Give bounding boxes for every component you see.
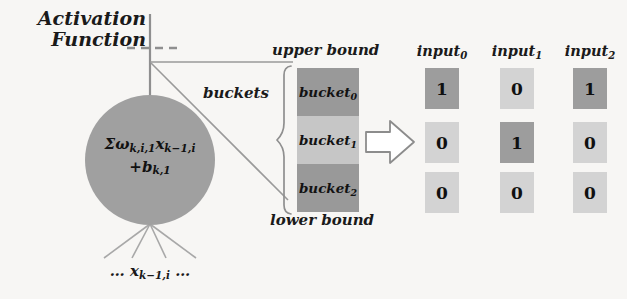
matrix-column-header-2: input2 (553, 42, 627, 59)
matrix-column-header-0: input0 (405, 42, 479, 59)
activation-function-label: Activation Function (18, 8, 146, 51)
bucket-cell-0[interactable]: bucket0 (297, 68, 359, 116)
neuron-input-edges (104, 224, 196, 258)
bucket-label-2: bucket2 (299, 180, 357, 196)
matrix-cell-r0c0[interactable]: 1 (425, 68, 459, 109)
neuron-inputs-label: … xk−1,i … (85, 262, 215, 280)
matrix-cell-r1c1[interactable]: 1 (500, 122, 534, 163)
matrix-cell-r2c1[interactable]: 0 (500, 172, 534, 213)
bucket-label-0: bucket0 (299, 84, 357, 100)
transform-arrow-icon (366, 121, 414, 163)
matrix-cell-r1c0[interactable]: 0 (425, 122, 459, 163)
bucket-cell-1[interactable]: bucket1 (297, 116, 359, 164)
buckets-label: buckets (203, 85, 269, 102)
matrix-column-header-1: input1 (480, 42, 554, 59)
matrix-cell-r1c2[interactable]: 0 (573, 122, 607, 163)
matrix-cell-r2c0[interactable]: 0 (425, 172, 459, 213)
neuron-formula: Σωk,i,1xk−1,i +bk,1 (85, 133, 215, 178)
matrix-cell-r0c1[interactable]: 0 (500, 68, 534, 109)
matrix-cell-r0c2[interactable]: 1 (573, 68, 607, 109)
neuron-formula-line-2: +bk,1 (85, 156, 215, 179)
matrix-cell-r2c2[interactable]: 0 (573, 172, 607, 213)
upper-bound-label: upper bound (272, 42, 379, 59)
bucketization-diagram: Activation Function Σωk,i,1xk−1,i +bk,1 … (0, 0, 627, 299)
bucket-label-1: bucket1 (299, 132, 357, 148)
neuron-formula-line-1: Σωk,i,1xk−1,i (85, 133, 215, 156)
lower-bound-label: lower bound (270, 212, 374, 229)
bucket-cell-2[interactable]: bucket2 (297, 164, 359, 212)
buckets-column: bucket0 bucket1 bucket2 (297, 68, 359, 212)
